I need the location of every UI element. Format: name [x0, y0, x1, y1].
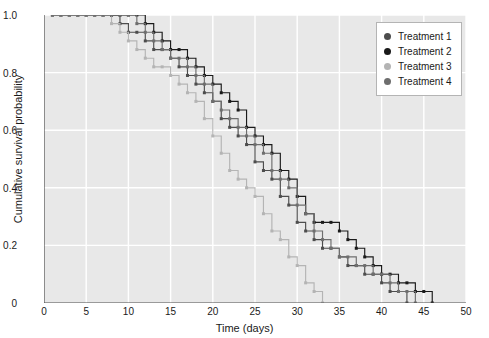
legend-marker-icon: [384, 63, 391, 70]
x-tick-label: 10: [108, 306, 148, 317]
legend-marker-icon: [384, 33, 391, 40]
legend-item-label: Treatment 3: [398, 61, 452, 72]
legend-item-2[interactable]: Treatment 2: [384, 44, 452, 59]
legend-item-label: Treatment 1: [398, 31, 452, 42]
x-tick-label: 50: [446, 306, 486, 317]
x-axis-title: Time (days): [0, 322, 489, 334]
y-tick-label: 1.0: [0, 10, 17, 21]
x-tick-label: 15: [151, 306, 191, 317]
legend-item-label: Treatment 4: [398, 76, 452, 87]
chart-legend: Treatment 1Treatment 2Treatment 3Treatme…: [376, 22, 462, 96]
x-tick-label: 20: [193, 306, 233, 317]
y-tick-label: 0: [0, 298, 17, 309]
survival-curve-figure: 00.20.40.60.81.0 05101520253035404550 Ti…: [0, 0, 489, 338]
x-tick-label: 45: [404, 306, 444, 317]
legend-marker-icon: [384, 48, 391, 55]
x-tick-label: 30: [277, 306, 317, 317]
x-tick-label: 40: [362, 306, 402, 317]
legend-item-label: Treatment 2: [398, 46, 452, 57]
legend-item-3[interactable]: Treatment 3: [384, 59, 452, 74]
legend-marker-icon: [384, 78, 391, 85]
x-tick-label: 0: [24, 306, 64, 317]
x-tick-label: 5: [66, 306, 106, 317]
legend-item-4[interactable]: Treatment 4: [384, 74, 452, 89]
legend-item-1[interactable]: Treatment 1: [384, 29, 452, 44]
x-tick-label: 35: [319, 306, 359, 317]
y-axis-title: Cumulative survival probability: [12, 39, 24, 259]
x-tick-label: 25: [235, 306, 275, 317]
series-4: [51, 15, 417, 303]
